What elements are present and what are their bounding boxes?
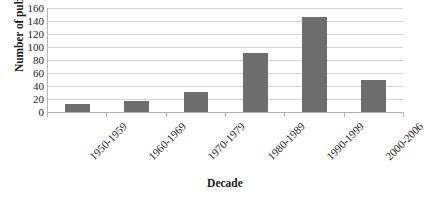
y-tick-label: 120	[14, 29, 44, 40]
bar[interactable]	[124, 101, 149, 112]
bar[interactable]	[302, 17, 327, 112]
bar[interactable]	[65, 104, 90, 112]
x-axis-title: Decade	[47, 176, 403, 190]
bar[interactable]	[361, 80, 386, 113]
y-tick-label: 20	[14, 94, 44, 105]
x-tick-label: 1950-1959	[87, 120, 129, 162]
y-tick-label: 40	[14, 81, 44, 92]
x-tick-label: 1970-1979	[205, 120, 247, 162]
x-tick-label: 1990-1999	[324, 120, 366, 162]
y-tick-label: 80	[14, 55, 44, 66]
y-tick-label: 160	[14, 3, 44, 14]
x-tick-label: 1980-1989	[265, 120, 307, 162]
bar[interactable]	[184, 92, 209, 112]
bar-slot	[226, 8, 285, 112]
x-tick-label: 2000-2006	[383, 120, 425, 162]
y-tick-label: 60	[14, 68, 44, 79]
bar-slot	[285, 8, 344, 112]
y-tick-label: 140	[14, 16, 44, 27]
bar[interactable]	[243, 53, 268, 112]
x-axis-tick-labels: 1950-19591960-19691970-19791980-19891990…	[47, 112, 403, 170]
bar-slot	[48, 8, 107, 112]
plot-area	[47, 8, 403, 112]
bar-slot	[344, 8, 403, 112]
bar-slot	[166, 8, 225, 112]
y-axis-tick-labels: 020406080100120140160	[14, 8, 44, 112]
x-tick-mark	[403, 112, 404, 117]
y-tick-label: 0	[14, 107, 44, 118]
y-tick-label: 100	[14, 42, 44, 53]
x-tick-label: 1960-1969	[146, 120, 188, 162]
bars-layer	[48, 8, 403, 112]
bar-slot	[107, 8, 166, 112]
